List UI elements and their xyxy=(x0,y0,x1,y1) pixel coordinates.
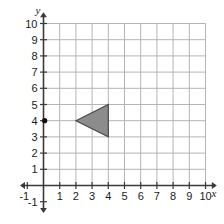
x-tick-label: 6 xyxy=(138,190,144,202)
y-tick-label: 10 xyxy=(25,18,37,30)
coordinate-plane-figure: -11234567891010987654321-1 x y xyxy=(0,0,224,224)
x-tick-label: 8 xyxy=(170,190,176,202)
y-tick-label: 7 xyxy=(31,66,37,78)
y-tick-label: 1 xyxy=(31,163,37,175)
y-tick-label: 4 xyxy=(31,115,37,127)
y-tick-label: 2 xyxy=(31,147,37,159)
x-tick-label: 7 xyxy=(154,190,160,202)
y-tick-label: 6 xyxy=(31,82,37,94)
y-tick-label: 5 xyxy=(31,99,37,111)
x-tick-label: 2 xyxy=(73,190,79,202)
x-tick-label: 9 xyxy=(186,190,192,202)
points-layer xyxy=(42,118,47,123)
x-tick-label: 4 xyxy=(105,190,111,202)
y-tick-label: 8 xyxy=(31,50,37,62)
coordinate-plane-svg: -11234567891010987654321-1 x y xyxy=(0,0,224,224)
y-tick-label: 3 xyxy=(31,131,37,143)
y-tick-label: 9 xyxy=(31,34,37,46)
x-tick-label: 5 xyxy=(121,190,127,202)
x-axis-label: x xyxy=(211,187,217,199)
y-axis-label: y xyxy=(35,4,41,16)
center-of-rotation-point xyxy=(42,118,47,123)
x-tick-label: 3 xyxy=(89,190,95,202)
x-tick-label: 10 xyxy=(199,190,211,202)
y-tick-label: -1 xyxy=(28,196,38,208)
x-tick-label: 1 xyxy=(57,190,63,202)
